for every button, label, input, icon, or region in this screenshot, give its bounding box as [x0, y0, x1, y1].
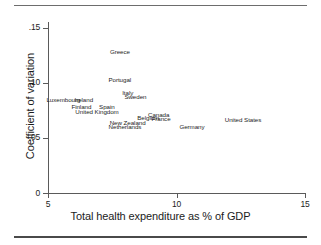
data-point-label: United Kingdom — [75, 108, 118, 115]
data-point-label: France — [152, 115, 171, 122]
data-point-label: Greece — [110, 48, 130, 55]
y-tick-label: 0 — [35, 189, 40, 198]
figure-container: 0.05.10.15 51015 GreecePortugalItalySwed… — [0, 0, 321, 245]
x-tick-mark — [177, 193, 178, 198]
y-axis-title: Coefficient of variation — [24, 11, 36, 201]
data-point-label: United States — [225, 116, 262, 123]
scatter-plot-area: GreecePortugalItalySwedenLuxembourgIrela… — [48, 22, 305, 193]
x-axis-title: Total health expenditure as % of GDP — [0, 210, 321, 222]
x-tick-mark — [305, 193, 306, 198]
x-tick-label: 5 — [38, 199, 58, 209]
bottom-divider-rule — [14, 236, 307, 238]
data-point-label: Sweden — [124, 93, 146, 100]
data-point-label: Portugal — [108, 76, 131, 83]
data-point-label: Netherlands — [109, 123, 142, 130]
x-tick-label: 15 — [295, 199, 315, 209]
x-tick-label: 10 — [167, 199, 187, 209]
data-point-label: Germany — [179, 123, 204, 130]
x-tick-mark — [48, 193, 49, 198]
top-divider-rule — [14, 5, 307, 6]
